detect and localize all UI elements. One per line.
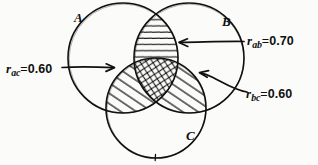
set-label-a: A — [74, 10, 83, 26]
r-bc-equals: = — [260, 87, 267, 101]
r-ac-value: 0.60 — [28, 62, 53, 76]
leader-r-bc — [200, 71, 248, 92]
annotation-r-ab: rab=0.70 — [247, 33, 294, 50]
annotation-r-ac: rac=0.60 — [6, 61, 52, 78]
r-ac-equals: = — [20, 62, 27, 76]
leader-r-ab — [179, 39, 244, 47]
venn-diagram-canvas — [0, 0, 318, 165]
venn-diagram-figure: A B C rab=0.70 rac=0.60 rbc=0.60 — [0, 0, 318, 165]
r-bc-subscript: bc — [251, 92, 260, 103]
set-label-c: C — [186, 128, 195, 144]
r-ac-subscript: ac — [11, 67, 20, 78]
annotation-r-bc: rbc=0.60 — [246, 86, 292, 103]
set-label-b: B — [222, 14, 231, 30]
r-ab-value: 0.70 — [269, 34, 294, 48]
r-ab-subscript: ab — [252, 39, 262, 50]
r-bc-value: 0.60 — [268, 87, 293, 101]
